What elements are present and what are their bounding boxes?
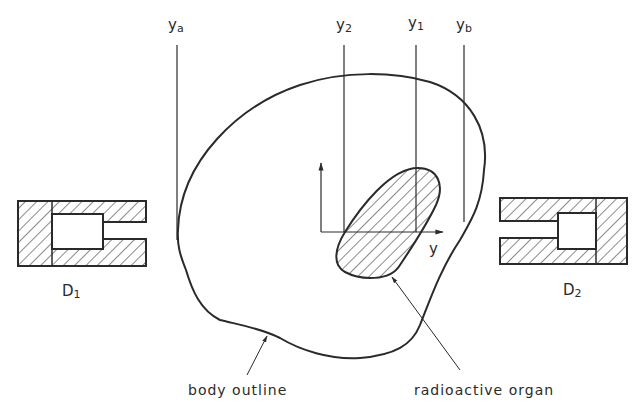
diagram-figure: ya y2 y1 yb y D1 D2 body outline radioac… [0,0,640,411]
organ-callout-arrow [392,277,460,370]
label-ya: ya [168,16,184,34]
radioactive-organ-caption: radioactive organ [414,382,554,398]
body-outline [178,74,485,358]
label-d1: D1 [62,282,81,300]
label-y2: y2 [336,16,352,34]
label-yb: yb [456,16,472,34]
body-callout-arrow [247,336,267,375]
detector-d2 [500,198,627,264]
axis-label-y: y [429,240,438,258]
radioactive-organ [336,168,440,278]
detector-d1 [18,201,146,266]
label-d2: D2 [563,281,582,299]
label-y1: y1 [408,14,424,32]
diagram-canvas [0,0,640,411]
body-outline-caption: body outline [188,382,287,398]
